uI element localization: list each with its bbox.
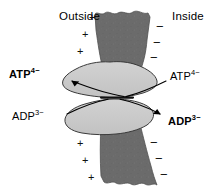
label-atp-inside: ATP4−	[170, 71, 200, 82]
charge-negative-bottom-2: −	[155, 152, 163, 165]
charge-negative-top-3: −	[150, 51, 158, 64]
protein-lobe-upper	[63, 62, 158, 98]
label-adp-outside-charge: 3−	[35, 108, 44, 117]
label-adp-outside-name: ADP	[12, 110, 35, 122]
label-atp-outside-name: ATP	[9, 68, 31, 80]
charge-negative-bottom-3: −	[160, 168, 168, 181]
membrane-transport-diagram: Outside Inside + + + − − − + + + − − − A…	[0, 0, 221, 194]
label-adp-outside: ADP3−	[12, 111, 44, 122]
label-atp-outside-charge: 4−	[31, 66, 40, 75]
diagram-canvas	[0, 0, 221, 194]
charge-negative-top-2: −	[153, 36, 161, 49]
label-adp-inside: ADP3−	[168, 116, 201, 127]
charge-positive-top-1: +	[89, 12, 95, 23]
label-atp-outside: ATP4−	[9, 69, 40, 80]
label-atp-inside-charge: 4−	[191, 68, 200, 77]
label-adp-inside-name: ADP	[168, 115, 192, 127]
charge-positive-top-3: +	[77, 46, 83, 57]
membrane-upper	[95, 11, 150, 69]
charge-positive-top-2: +	[82, 29, 88, 40]
charge-positive-bottom-3: +	[88, 172, 94, 183]
inside-label: Inside	[172, 11, 204, 23]
charge-negative-bottom-1: −	[150, 136, 158, 149]
charge-positive-bottom-1: +	[77, 138, 83, 149]
label-adp-inside-charge: 3−	[192, 113, 201, 122]
charge-negative-top-1: −	[156, 20, 164, 33]
label-atp-inside-name: ATP	[170, 70, 191, 82]
charge-positive-bottom-2: +	[82, 155, 88, 166]
